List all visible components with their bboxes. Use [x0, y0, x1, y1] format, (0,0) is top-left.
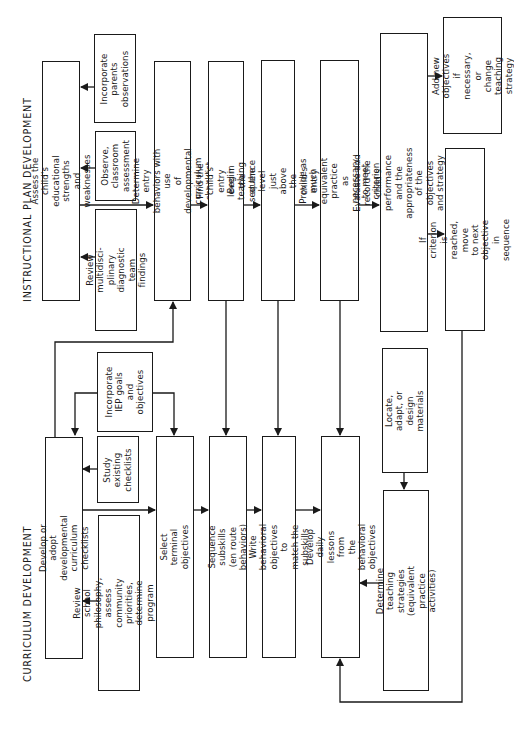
- node-label: Develop daily lessons from the behaviora…: [304, 524, 377, 570]
- node-criterion-reached: If criterion is reached, move to next ob…: [445, 148, 485, 331]
- node-label: Assess the child's educational strengths…: [30, 155, 92, 208]
- node-label: Review school philosophy, assess communi…: [72, 578, 166, 629]
- node-locate-materials: Locate, adapt, or design materials: [382, 348, 428, 473]
- node-assess-strengths: Assess the child's educational strengths…: [42, 61, 80, 301]
- node-label: Locate, adapt, or design materials: [384, 390, 426, 431]
- node-label: Evaluate and record the child's performa…: [352, 147, 456, 218]
- node-label: Incorporate IEP goals and objectives: [104, 367, 146, 418]
- node-label: Determine teaching strategies (equivalen…: [375, 566, 437, 616]
- node-label: Observe, classroom assessment: [100, 140, 131, 192]
- node-determine-entry-behaviors: Determine entry behaviors with use of de…: [154, 61, 191, 301]
- node-observe-classroom: Observe, classroom assessment: [95, 131, 136, 201]
- section-label-curriculum: CURRICULUM DEVELOPMENT: [22, 526, 33, 682]
- node-label: Add new objectives if necessary, or chan…: [431, 52, 514, 99]
- node-select-terminal: Select terminal objectives: [156, 436, 194, 658]
- node-write-objectives: Write behavioral objectives to match the…: [262, 436, 296, 658]
- node-label: Write behavioral objectives to match the…: [248, 524, 310, 570]
- node-teaching-strategies: Determine teaching strategies (equivalen…: [383, 490, 429, 691]
- node-review-team-findings: Review multidisci- plinary diagnostic te…: [95, 209, 137, 331]
- node-label: Review multidisci- plinary diagnostic te…: [85, 247, 147, 293]
- node-label: Study existing checklists: [102, 448, 133, 491]
- node-label: Incorporate parents observations: [99, 50, 130, 107]
- node-begin-teaching: Begin teaching at the level just above t…: [261, 60, 295, 301]
- node-incorporate-parents: Incorporate parents observations: [94, 34, 136, 123]
- node-incorporate-iep: Incorporate IEP goals and objectives: [97, 352, 153, 432]
- node-label: Develop or adopt developmental curriculu…: [38, 515, 90, 581]
- node-label: Select terminal objectives: [159, 525, 190, 570]
- node-add-new-objectives: Add new objectives if necessary, or chan…: [443, 17, 502, 134]
- node-label: If criterion is reached, move to next ob…: [418, 218, 512, 260]
- node-label: Sequence subskills (en route behaviors): [207, 524, 249, 571]
- node-sequence-subskills: Sequence subskills (en route behaviors): [209, 436, 247, 658]
- node-daily-lessons: Develop daily lessons from the behaviora…: [321, 436, 360, 658]
- node-evaluate-record: Evaluate and record the child's performa…: [380, 33, 428, 332]
- node-review-philosophy: Review school philosophy, assess communi…: [98, 515, 140, 691]
- node-study-checklists: Study existing checklists: [97, 436, 139, 503]
